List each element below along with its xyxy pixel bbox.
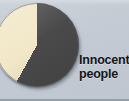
slice-label-innocent-people: Innocent people: [79, 54, 129, 81]
slice-label-line-1: Innocent: [79, 54, 129, 68]
slice-label-line-2: people: [79, 68, 129, 82]
pie-chart-figure: Innocent people: [0, 0, 129, 101]
pie-chart: [0, 3, 79, 87]
bottom-divider: [0, 99, 129, 101]
